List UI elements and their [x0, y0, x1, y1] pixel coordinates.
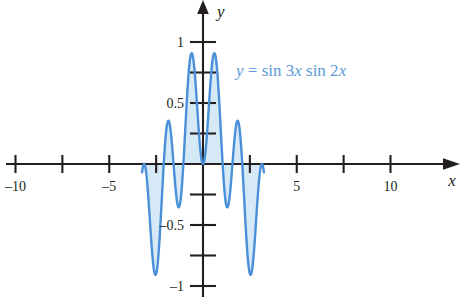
equation-x-symbol-2: x: [338, 61, 347, 80]
x-axis-arrow-icon: [443, 158, 460, 170]
y-axis-arrow-icon: [197, 0, 209, 14]
y-tick-label: 1: [177, 35, 184, 50]
x-axis-tick-labels: 510–10–5: [4, 179, 398, 194]
y-tick-label: –0.5: [159, 218, 185, 233]
plot-canvas: 510–10–5 10.5–0.5–1 x y y = sin 3x sin 2…: [0, 0, 476, 305]
x-tick-label: –5: [101, 179, 116, 194]
x-tick-label: 5: [293, 179, 300, 194]
y-tick-label: –1: [169, 279, 184, 294]
x-axis-label: x: [447, 171, 456, 190]
x-tick-label: –10: [4, 179, 26, 194]
y-tick-label: 0.5: [167, 96, 185, 111]
equation-y-symbol: y: [234, 61, 244, 80]
x-tick-label: 10: [384, 179, 398, 194]
equation-annotation: y = sin 3x sin 2x: [234, 61, 347, 80]
chart-figure: 510–10–5 10.5–0.5–1 x y y = sin 3x sin 2…: [0, 0, 476, 305]
y-axis-label: y: [215, 2, 225, 21]
